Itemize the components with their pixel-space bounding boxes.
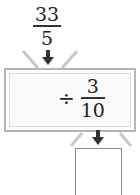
divide-operator: ÷ bbox=[58, 86, 75, 110]
input-denominator: 5 bbox=[41, 28, 53, 48]
input-fraction: 33 5 bbox=[33, 4, 61, 48]
operation: ÷ 3 10 bbox=[58, 76, 105, 120]
operation-box: ÷ 3 10 bbox=[4, 68, 136, 132]
down-arrow-icon bbox=[42, 50, 54, 66]
input-numerator: 33 bbox=[35, 4, 59, 24]
operand-fraction: 3 10 bbox=[81, 76, 105, 120]
answer-box[interactable] bbox=[75, 148, 122, 195]
operand-denominator: 10 bbox=[81, 100, 105, 120]
operand-numerator: 3 bbox=[87, 76, 99, 96]
down-arrow-icon bbox=[92, 130, 104, 146]
